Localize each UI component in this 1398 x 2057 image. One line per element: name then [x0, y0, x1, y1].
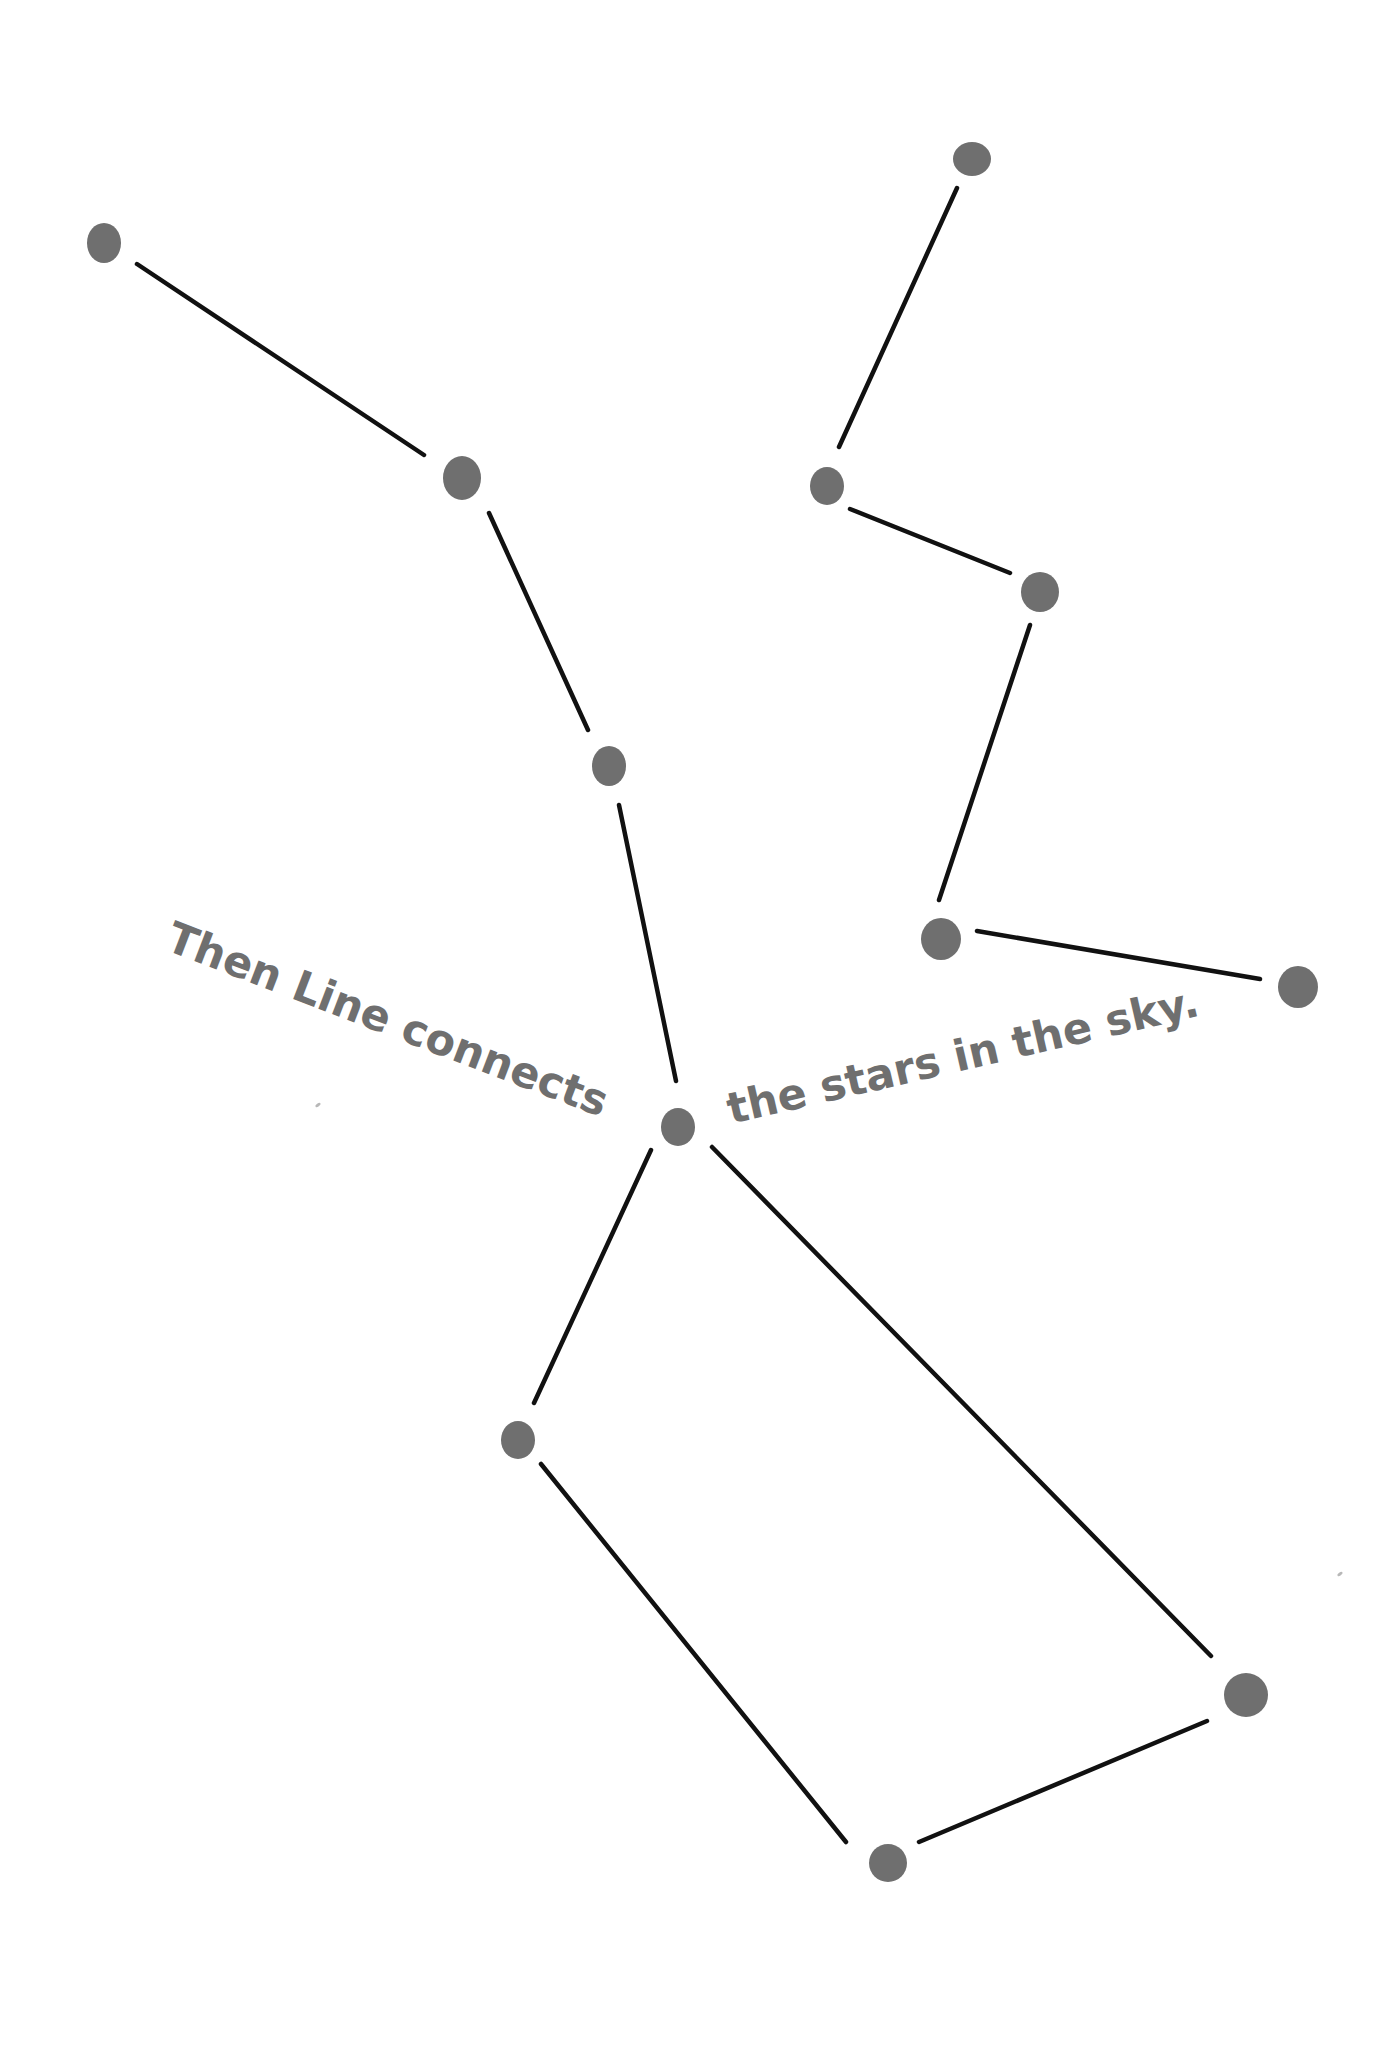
star-1-dot [87, 223, 121, 263]
star-7-dot [1224, 1673, 1268, 1717]
star-9-dot [810, 467, 844, 505]
star-6-dot [869, 1844, 907, 1882]
star-8-dot [953, 142, 991, 176]
star-12-dot [1278, 966, 1318, 1008]
star-10-dot [1021, 572, 1059, 612]
star-3-dot [592, 746, 626, 786]
star-4-dot [661, 1108, 695, 1146]
star-11-dot [921, 918, 961, 960]
star-2-dot [443, 456, 481, 500]
star-5-dot [501, 1421, 535, 1459]
